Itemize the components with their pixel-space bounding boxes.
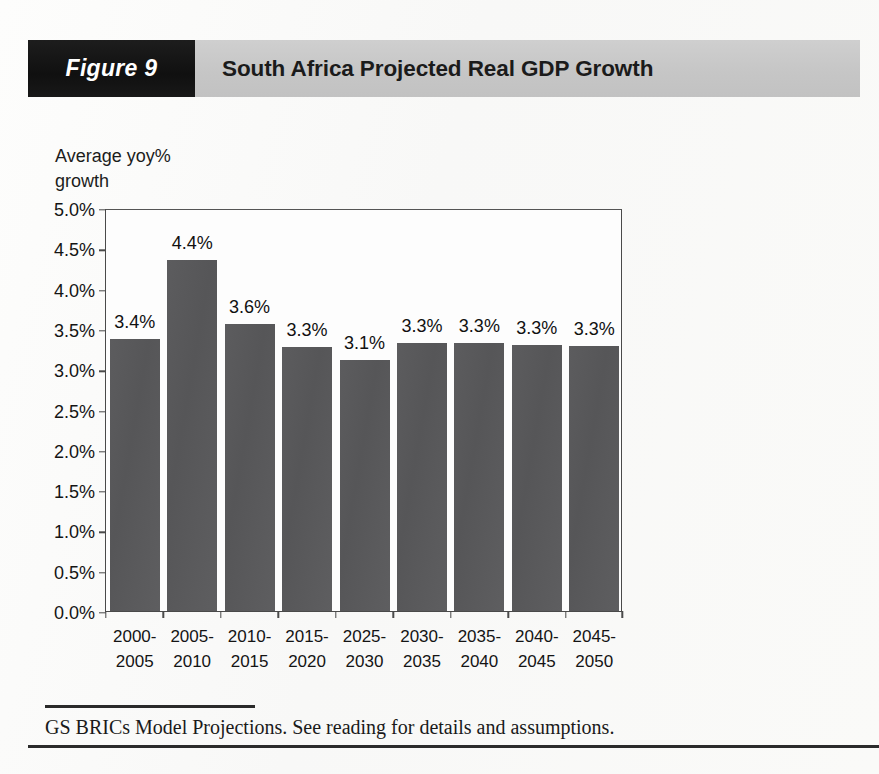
x-axis-category-label: 2030- 2035 [400,624,443,674]
footnote-source-text: GS BRICs Model Projections. See reading … [45,716,614,739]
x-axis-tick-mark [393,611,394,618]
y-axis-tick-label: 4.5% [54,240,106,261]
y-axis-tick-label: 1.5% [54,482,106,503]
x-axis-tick-mark [565,611,566,618]
plot-area: 0.0%0.5%1.0%1.5%2.0%2.5%3.0%3.5%4.0%4.5%… [105,209,622,612]
x-axis-category-label: 2010- 2015 [228,624,271,674]
x-axis-category-label: 2035- 2040 [458,624,501,674]
x-axis-tick-mark [220,611,221,618]
x-axis-category-label: 2045- 2050 [573,624,616,674]
chart-container: Average yoy% growth 0.0%0.5%1.0%1.5%2.0%… [0,0,879,774]
x-axis-category-label: 2040- 2045 [515,624,558,674]
x-axis-category-label: 2005- 2010 [170,624,213,674]
y-axis-tick-label: 4.0% [54,280,106,301]
x-axis-tick-mark [278,611,279,618]
y-axis-tick-label: 5.0% [54,200,106,221]
y-axis-title: Average yoy% growth [55,144,171,194]
x-axis-tick-mark [450,611,451,618]
x-axis-ticks: 2000- 20052005- 20102010- 20152015- 2020… [106,210,621,611]
y-axis-tick-label: 3.0% [54,361,106,382]
y-axis-tick-label: 0.0% [54,603,106,624]
y-axis-tick-label: 3.5% [54,320,106,341]
x-axis-tick-mark [105,611,106,618]
x-axis-category-label: 2000- 2005 [113,624,156,674]
x-axis-category-label: 2015- 2020 [285,624,328,674]
y-axis-tick-label: 1.0% [54,522,106,543]
y-axis-tick-label: 2.0% [54,441,106,462]
footnote-divider [45,705,255,708]
y-axis-tick-label: 2.5% [54,401,106,422]
page-bottom-rule [28,745,879,748]
x-axis-tick-mark [163,611,164,618]
x-axis-tick-mark [507,611,508,618]
x-axis-tick-mark [335,611,336,618]
x-axis-tick-mark [622,611,623,618]
x-axis-category-label: 2025- 2030 [343,624,386,674]
y-axis-tick-label: 0.5% [54,562,106,583]
